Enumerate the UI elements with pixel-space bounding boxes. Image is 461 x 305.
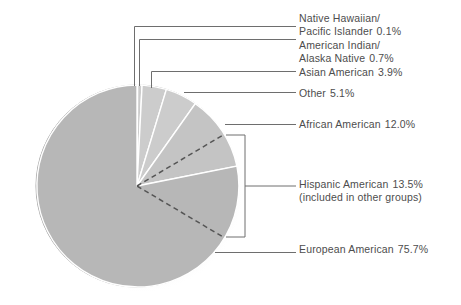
label-asian-american-name: Asian American <box>299 66 374 78</box>
label-african-american-percent: 12.0% <box>385 118 416 130</box>
label-hispanic-american-name: Hispanic American <box>299 178 389 190</box>
label-american-indian-line1: American Indian/ <box>299 39 380 51</box>
label-other: Other5.1% <box>299 87 355 100</box>
label-american-indian-line2: Alaska Native <box>299 52 365 64</box>
leader-asian-american <box>152 72 297 89</box>
label-other-percent: 5.1% <box>330 87 355 99</box>
label-african-american: African American12.0% <box>299 118 415 131</box>
label-european-american-percent: 75.7% <box>398 243 429 255</box>
label-native-hawaiian-line1: Native Hawaiian/ <box>299 12 380 24</box>
label-hispanic-american: Hispanic American13.5%(included in other… <box>299 178 423 203</box>
pie-chart-figure: Native Hawaiian/Pacific Islander0.1% Ame… <box>0 0 461 305</box>
label-european-american: European American75.7% <box>299 243 428 256</box>
label-asian-american-percent: 3.9% <box>378 66 403 78</box>
label-other-name: Other <box>299 87 326 99</box>
label-european-american-name: European American <box>299 243 394 255</box>
label-american-indian-percent: 0.7% <box>369 52 394 64</box>
leader-native-hawaiian <box>135 27 297 87</box>
label-hispanic-american-percent: 13.5% <box>393 178 424 190</box>
label-african-american-name: African American <box>299 118 381 130</box>
label-native-hawaiian-percent: 0.1% <box>377 25 402 37</box>
leader-american-indian <box>140 40 297 87</box>
label-native-hawaiian: Native Hawaiian/Pacific Islander0.1% <box>299 12 401 37</box>
label-asian-american: Asian American3.9% <box>299 66 403 79</box>
label-native-hawaiian-line2: Pacific Islander <box>299 25 373 37</box>
label-hispanic-american-note: (included in other groups) <box>299 191 423 204</box>
label-american-indian: American Indian/Alaska Native0.7% <box>299 39 394 64</box>
